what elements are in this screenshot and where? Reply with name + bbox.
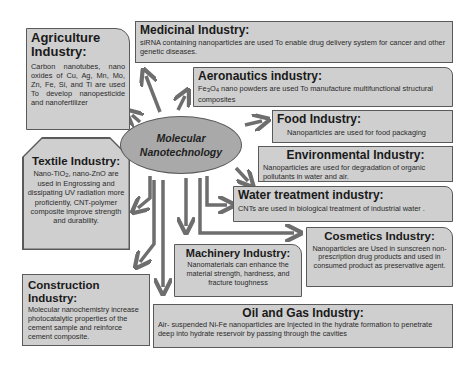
agriculture-industry-box: Agriculture Industry: Carbon nanotubes, … — [26, 28, 130, 130]
environmental-industry-box: Environmental Industry: Nanoparticles ar… — [258, 146, 453, 182]
cosmetics-industry-box: Cosmetics Industry: Nanoparticles are Us… — [306, 227, 453, 287]
water-treatment-title: Water treatment industry: — [238, 189, 448, 202]
arrow-to-textile — [138, 176, 150, 208]
center-label-line2: Nanotechnology — [140, 145, 222, 159]
center-label-line1: Molecular — [140, 131, 222, 145]
aeronautics-title: Aeronautics industry: — [198, 70, 448, 83]
construction-description: Molecular nanochemistry increase photoca… — [28, 306, 144, 342]
cosmetics-description: Nanoparticles are Used in sunscreen non-… — [311, 245, 448, 271]
food-description: Nanoparticles are used for food packagin… — [277, 128, 448, 137]
agriculture-title-line1: Agriculture — [31, 31, 125, 45]
oil-gas-title: Oil and Gas Industry: — [158, 307, 448, 320]
arrow-to-medicinal — [146, 76, 160, 112]
aeronautics-industry-box: Aeronautics industry: Fe3O4 nano powders… — [193, 67, 453, 107]
arrow-to-construction — [140, 180, 154, 262]
machinery-industry-box: Machinery Industry: Nanomaterials can en… — [174, 244, 302, 297]
arrow-to-environmental — [236, 168, 248, 181]
construction-title: Construction Industry: — [28, 279, 144, 304]
agriculture-description: Carbon nanotubes, nano oxides of Cu, Ag,… — [31, 62, 125, 107]
machinery-description: Nanomaterials can enhance the material s… — [179, 261, 297, 287]
oil-gas-industry-box: Oil and Gas Industry: Air- suspended Ni-… — [153, 304, 453, 348]
environmental-description: Nanoparticles are used for degradation o… — [263, 163, 448, 181]
food-title: Food Industry: — [277, 113, 448, 126]
arrow-to-food — [245, 121, 262, 125]
textile-description: Nano-TiO2, nano-ZnO are used in Engrossi… — [28, 169, 125, 224]
medicinal-title: Medicinal Industry: — [140, 24, 448, 37]
arrow-to-agriculture — [132, 115, 140, 122]
aeronautics-description: Fe3O4 nano powders are used To manufactu… — [198, 84, 448, 103]
textile-title: Textile Industry: — [28, 155, 125, 168]
water-treatment-industry-box: Water treatment industry: CNTs are used … — [233, 186, 453, 222]
agriculture-title-line2: Industry: — [31, 45, 125, 59]
machinery-title: Machinery Industry: — [179, 247, 297, 259]
medicinal-industry-box: Medicinal Industry: siRNA containing nan… — [135, 21, 453, 63]
food-industry-box: Food Industry: Nanoparticles are used fo… — [272, 110, 453, 143]
water-treatment-description: CNTs are used in biological treatment of… — [238, 204, 448, 213]
molecular-nanotechnology-ellipse: Molecular Nanotechnology — [120, 116, 242, 174]
environmental-title: Environmental Industry: — [263, 149, 448, 162]
arrow-to-aeronautics — [178, 96, 185, 110]
construction-industry-box: Construction Industry: Molecular nanoche… — [22, 274, 150, 346]
medicinal-description: siRNA containing nanoparticles are used … — [140, 38, 448, 56]
textile-industry-box: Textile Industry: Nano-TiO2, nano-ZnO ar… — [22, 137, 130, 250]
arrow-to-water — [207, 176, 227, 205]
oil-gas-description: Air- suspended Ni-Fe nanoparticles are I… — [158, 321, 448, 339]
cosmetics-title: Cosmetics Industry: — [311, 230, 448, 243]
